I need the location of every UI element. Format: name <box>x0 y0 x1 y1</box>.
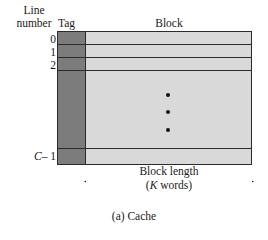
row-label-last-text: – 1 <box>42 150 56 162</box>
block-column-header: Block <box>86 17 252 30</box>
row-label-1-text: 1 <box>50 46 56 58</box>
row-divider-3 <box>58 148 251 149</box>
row-label-1: 1 <box>0 46 56 58</box>
row-label-last: C– 1 <box>0 150 56 162</box>
row-label-last-italic: C <box>34 150 42 162</box>
cache-structure-figure: Line number Tag Block 0 1 2 C– 1 Block l… <box>0 0 268 240</box>
row-label-0-text: 0 <box>50 33 56 45</box>
row-label-0: 0 <box>0 33 56 45</box>
row-divider-0 <box>58 44 251 45</box>
row-divider-1 <box>58 57 251 58</box>
block-length-line2: (K words) <box>86 179 252 193</box>
cache-table <box>57 31 252 165</box>
block-length-label: Block length (K words) <box>86 165 252 192</box>
line-number-column-label: Line number <box>8 4 60 30</box>
ellipsis-dot-2 <box>166 110 170 114</box>
ellipsis-dot-3 <box>166 128 170 132</box>
block-length-words: words) <box>157 179 192 191</box>
row-divider-2 <box>58 70 251 71</box>
row-label-2: 2 <box>0 59 56 71</box>
block-length-line1: Block length <box>139 165 198 177</box>
figure-caption: (a) Cache <box>0 210 268 223</box>
ellipsis-dot-1 <box>166 93 170 97</box>
tag-column <box>58 32 86 164</box>
tag-column-header: Tag <box>58 17 75 30</box>
row-label-2-text: 2 <box>50 59 56 71</box>
